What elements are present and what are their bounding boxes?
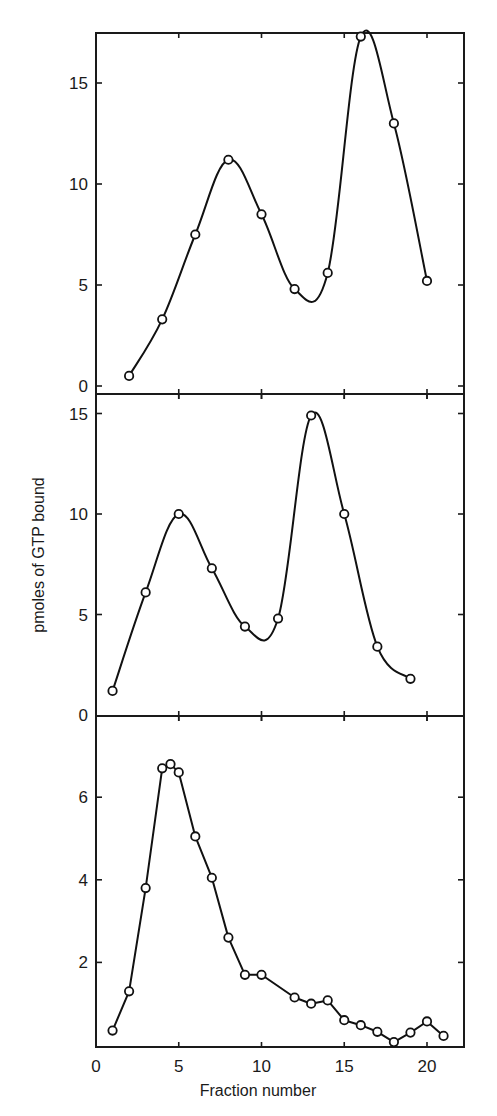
data-point-marker [175,768,183,776]
y-tick-label: 10 [69,505,88,524]
data-point-marker [390,1038,398,1046]
middle-panel: 051015 [69,394,464,725]
data-point-marker [439,1032,447,1040]
data-point-marker [274,614,282,622]
data-point-marker [290,285,298,293]
data-point-marker [340,510,348,518]
y-tick-label: 5 [79,276,88,295]
bottom-panel: 246 [79,716,464,1047]
data-point-marker [373,1028,381,1036]
x-tick-label: 20 [418,1057,437,1076]
data-point-marker [158,764,166,772]
data-point-marker [208,874,216,882]
data-point-marker [257,971,265,979]
stacked-line-chart-figure: 051015 051015 246 05101520 Fraction numb… [0,0,497,1116]
y-tick-label: 2 [79,953,88,972]
data-point-marker [208,564,216,572]
y-tick-label: 15 [69,74,88,93]
data-point-marker [357,32,365,40]
data-point-marker [257,210,265,218]
data-curve [129,31,427,376]
data-curve [113,764,444,1042]
data-point-marker [191,230,199,238]
data-point-marker [141,884,149,892]
data-point-marker [324,269,332,277]
y-tick-label: 6 [79,788,88,807]
data-point-marker [125,372,133,380]
data-point-marker [108,1026,116,1034]
data-point-marker [108,687,116,695]
data-point-marker [390,119,398,127]
data-point-marker [290,993,298,1001]
x-tick-label: 0 [91,1057,100,1076]
y-tick-label: 10 [69,175,88,194]
x-axis-tick-labels: 05101520 [91,1057,436,1076]
data-point-marker [406,1028,414,1036]
data-point-marker [224,156,232,164]
data-point-marker [307,1000,315,1008]
data-point-marker [340,1016,348,1024]
data-point-marker [166,760,174,768]
y-axis-title: pmoles of GTP bound [30,477,47,632]
y-tick-label: 5 [79,606,88,625]
top-panel: 051015 [69,31,464,399]
panel-frame [96,716,464,1047]
y-tick-label: 0 [79,377,88,396]
panel-frame [96,394,464,716]
data-point-marker [241,971,249,979]
data-point-marker [307,411,315,419]
data-point-marker [241,622,249,630]
data-point-marker [141,588,149,596]
data-point-marker [423,1017,431,1025]
data-point-marker [191,832,199,840]
data-point-marker [357,1021,365,1029]
data-point-marker [423,277,431,285]
x-tick-label: 10 [252,1057,271,1076]
data-curve [113,413,411,691]
data-point-marker [125,987,133,995]
data-point-marker [324,996,332,1004]
data-point-marker [373,642,381,650]
data-point-marker [224,933,232,941]
data-point-marker [158,315,166,323]
x-tick-label: 15 [335,1057,354,1076]
x-tick-label: 5 [174,1057,183,1076]
y-tick-label: 15 [69,405,88,424]
data-point-marker [175,510,183,518]
x-axis-title: Fraction number [200,1082,317,1099]
y-tick-label: 0 [79,706,88,725]
y-tick-label: 4 [79,871,88,890]
data-point-marker [406,675,414,683]
